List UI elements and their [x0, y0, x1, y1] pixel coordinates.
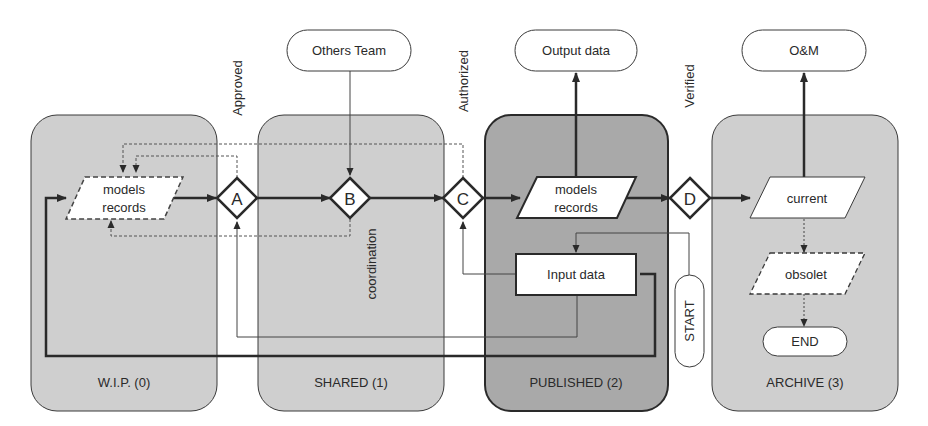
svg-text:Others Team: Others Team	[312, 43, 386, 58]
svg-text:models: models	[555, 182, 597, 197]
caption-approved: Approved	[230, 60, 245, 116]
stage-label-wip: W.I.P. (0)	[98, 375, 151, 390]
node-current: current	[750, 177, 865, 218]
svg-text:obsolet: obsolet	[785, 267, 827, 282]
stage-label-archive: ARCHIVE (3)	[766, 375, 843, 390]
gate-c: C	[443, 178, 483, 218]
caption-authorized: Authorized	[456, 50, 471, 112]
svg-text:current: current	[787, 191, 828, 206]
terminal-end: END	[763, 327, 847, 356]
workflow-diagram: W.I.P. (0) SHARED (1) PUBLISHED (2) ARCH…	[0, 0, 928, 426]
gate-a: A	[217, 178, 257, 218]
terminal-others-team: Others Team	[287, 30, 411, 71]
terminal-output-data: Output data	[515, 30, 637, 71]
svg-text:Output data: Output data	[542, 43, 611, 58]
stage-label-shared: SHARED (1)	[314, 375, 388, 390]
svg-text:models: models	[103, 182, 145, 197]
node-input-data: Input data	[516, 254, 636, 295]
svg-text:END: END	[791, 334, 818, 349]
stage-shared: SHARED (1)	[258, 115, 444, 411]
stage-wip: W.I.P. (0)	[31, 115, 217, 411]
svg-text:records: records	[102, 200, 146, 215]
svg-text:Input data: Input data	[547, 267, 606, 282]
node-published-models-records: models records	[517, 177, 636, 218]
svg-text:O&M: O&M	[789, 43, 819, 58]
gate-d: D	[670, 178, 710, 218]
caption-verified: Verified	[682, 64, 697, 107]
node-obsolete: obsolet	[750, 253, 865, 294]
caption-coordination: coordination	[364, 229, 379, 300]
svg-text:C: C	[457, 190, 469, 209]
svg-text:records: records	[554, 200, 598, 215]
terminal-start: START	[675, 275, 704, 367]
node-wip-models-records: models records	[66, 177, 183, 219]
terminal-om: O&M	[742, 30, 866, 71]
svg-text:A: A	[231, 190, 243, 209]
svg-text:START: START	[682, 300, 697, 341]
stage-label-published: PUBLISHED (2)	[529, 375, 622, 390]
svg-text:D: D	[684, 190, 696, 209]
svg-text:B: B	[344, 190, 355, 209]
